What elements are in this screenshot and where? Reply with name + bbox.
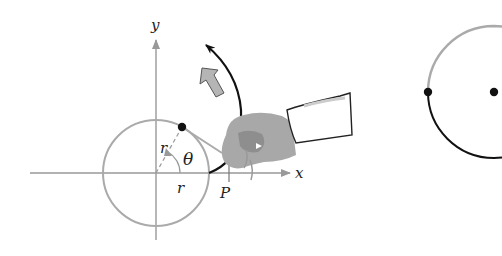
right-figure bbox=[424, 26, 502, 158]
sleeve-cuff bbox=[287, 93, 352, 143]
diagram-canvas: y x r r θ P bbox=[0, 0, 502, 256]
point-p-label: P bbox=[219, 184, 231, 202]
left-point-dot bbox=[424, 88, 432, 96]
rotation-direction-arrow-icon bbox=[200, 68, 224, 97]
x-axis-label: x bbox=[295, 164, 304, 182]
y-axis-label: y bbox=[150, 16, 160, 34]
radius-label-horizontal: r bbox=[177, 179, 185, 197]
radius-label-diagonal: r bbox=[160, 139, 168, 157]
upper-arc-gray bbox=[428, 26, 502, 92]
center-dot bbox=[490, 88, 498, 96]
angle-theta-label: θ bbox=[183, 149, 193, 169]
lower-arc-black bbox=[428, 92, 502, 158]
left-figure: y x r r θ P bbox=[30, 16, 352, 240]
tangent-point-dot bbox=[178, 123, 186, 131]
